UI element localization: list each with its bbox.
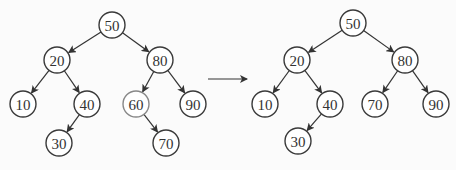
edge-80-90 <box>412 71 427 93</box>
edge-20-10 <box>273 71 289 93</box>
node-label: 60 <box>129 97 144 113</box>
tree-node-60: 60 <box>123 91 149 117</box>
tree-node-20: 20 <box>284 47 310 73</box>
tree-node-80: 80 <box>392 47 418 73</box>
node-label: 20 <box>290 53 305 69</box>
tree-node-70: 70 <box>153 130 179 156</box>
edge-80-90 <box>168 70 185 92</box>
tree-node-20: 20 <box>44 47 70 73</box>
edge-20-40 <box>305 70 322 92</box>
edge-60-70 <box>144 114 158 132</box>
node-label: 10 <box>16 97 31 113</box>
edge-20-10 <box>32 70 49 93</box>
tree-node-90: 90 <box>423 91 449 117</box>
bst-deletion-diagram: 502080104060903070 5020801040709030 <box>0 0 456 170</box>
tree-node-40: 40 <box>74 91 100 117</box>
edge-80-70 <box>383 71 398 93</box>
tree-after: 5020801040709030 <box>252 10 449 154</box>
tree-node-50: 50 <box>340 10 366 36</box>
tree-node-10: 10 <box>10 91 36 117</box>
node-label: 90 <box>186 97 201 113</box>
edge-40-30 <box>67 115 79 132</box>
edge-50-20 <box>309 30 342 52</box>
node-label: 30 <box>52 136 67 152</box>
node-label: 80 <box>398 53 413 69</box>
edge-50-80 <box>364 31 394 52</box>
edge-80-60 <box>143 71 154 91</box>
edge-50-80 <box>123 33 149 52</box>
node-label: 50 <box>346 16 361 32</box>
node-label: 50 <box>105 18 120 34</box>
node-label: 20 <box>50 53 65 69</box>
tree-node-70: 70 <box>362 91 388 117</box>
node-label: 70 <box>368 97 383 113</box>
node-label: 10 <box>258 97 273 113</box>
tree-node-30: 30 <box>46 130 72 156</box>
tree-node-40: 40 <box>317 91 343 117</box>
node-label: 40 <box>80 97 95 113</box>
edge-40-30 <box>307 114 321 131</box>
node-label: 70 <box>159 136 174 152</box>
tree-node-50: 50 <box>99 12 125 38</box>
edge-20-40 <box>64 71 79 93</box>
edge-50-20 <box>69 32 101 53</box>
tree-node-80: 80 <box>147 47 173 73</box>
tree-before: 502080104060903070 <box>10 12 206 156</box>
tree-node-30: 30 <box>285 128 311 154</box>
node-label: 40 <box>323 97 338 113</box>
node-label: 80 <box>153 53 168 69</box>
diagram-canvas: 502080104060903070 5020801040709030 <box>0 0 456 170</box>
node-label: 90 <box>429 97 444 113</box>
tree-node-10: 10 <box>252 91 278 117</box>
tree-node-90: 90 <box>180 91 206 117</box>
node-label: 30 <box>291 134 306 150</box>
